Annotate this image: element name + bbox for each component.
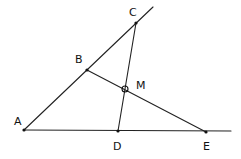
- point-b: [85, 68, 88, 71]
- label-a: A: [14, 115, 22, 128]
- point-d: [116, 129, 119, 132]
- line-AC-extended: [24, 7, 153, 130]
- label-b: B: [75, 53, 83, 66]
- point-a: [22, 128, 25, 131]
- label-e: E: [203, 140, 210, 153]
- geometry-diagram: ABCDEM: [0, 0, 241, 159]
- point-c: [134, 21, 137, 24]
- line-AE-extended: [24, 130, 231, 131]
- label-d: D: [113, 140, 121, 153]
- point-e: [204, 130, 207, 133]
- segment-BE: [87, 70, 206, 132]
- segment-CD: [118, 23, 136, 131]
- label-c: C: [129, 6, 137, 19]
- label-m: M: [136, 79, 146, 92]
